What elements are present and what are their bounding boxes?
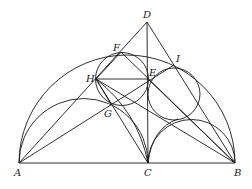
label-B: B <box>233 167 241 178</box>
label-F: F <box>112 42 121 53</box>
segment-HB <box>96 79 235 163</box>
segment-EB <box>148 79 235 163</box>
label-A: A <box>13 167 21 178</box>
diagram-canvas: A B C D E F G H I <box>0 0 252 189</box>
segment-AD <box>19 22 147 163</box>
semicircle-AC <box>19 99 148 163</box>
label-C: C <box>144 167 152 178</box>
label-D: D <box>142 9 151 20</box>
segment-DB <box>147 22 235 163</box>
geometry-figure: A B C D E F G H I <box>0 0 252 189</box>
label-G: G <box>104 108 112 119</box>
semicircle-AB <box>19 55 235 163</box>
label-I: I <box>175 53 181 64</box>
segment-DC <box>147 22 148 163</box>
label-H: H <box>85 73 95 84</box>
label-E: E <box>148 67 157 78</box>
